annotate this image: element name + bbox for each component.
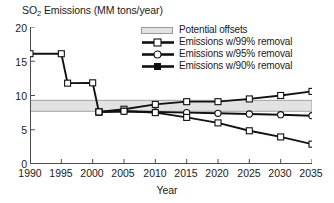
data-point-marker <box>309 141 312 147</box>
data-point-marker <box>184 114 190 120</box>
data-point-marker <box>90 80 96 86</box>
chart-title-rest: Emissions (MM tons/year) <box>41 4 163 16</box>
data-point-marker <box>278 112 284 118</box>
xtick-label-2005: 2005 <box>106 167 140 179</box>
xtick-label-2025: 2025 <box>232 167 266 179</box>
potential-offsets-band <box>30 100 312 111</box>
data-point-marker <box>215 110 221 116</box>
legend-key-square-filled-icon <box>141 61 175 72</box>
data-point-marker <box>152 101 158 107</box>
chart-figure: SO2 Emissions (MM tons/year) 20 15 10 5 … <box>0 0 334 203</box>
data-point-marker <box>65 80 71 86</box>
xtick-label-2015: 2015 <box>169 167 203 179</box>
chart-title-subscript: 2 <box>37 9 41 18</box>
data-point-marker <box>30 51 33 57</box>
ytick-label-15: 15 <box>5 56 27 68</box>
xaxis-label: Year <box>0 184 334 196</box>
xtick-label-2000: 2000 <box>75 167 109 179</box>
xtick-label-2035: 2035 <box>294 167 328 179</box>
data-point-marker <box>58 51 64 57</box>
chart-title-main: SO <box>22 4 37 16</box>
offsets-band-rect <box>30 100 312 111</box>
legend-label-90-removal: Emissions w/90% removal <box>179 60 292 71</box>
legend-label-potential-offsets: Potential offsets <box>179 24 247 35</box>
legend-label-99-removal: Emissions w/99% removal <box>179 36 292 47</box>
ytick-label-20: 20 <box>5 22 27 34</box>
data-point-marker <box>152 110 158 116</box>
data-point-marker <box>246 96 252 102</box>
data-point-marker <box>96 109 102 115</box>
legend-swatch-band-icon <box>141 27 173 34</box>
xtick-label-1990: 1990 <box>13 167 47 179</box>
data-point-marker <box>309 88 312 94</box>
ytick-label-5: 5 <box>5 124 27 136</box>
legend-key-square-open-icon <box>141 37 175 48</box>
data-point-marker <box>121 108 127 114</box>
data-point-marker <box>278 93 284 99</box>
legend-label-95-removal: Emissions w/95% removal <box>179 48 292 59</box>
ytick-label-10: 10 <box>5 90 27 102</box>
data-point-marker <box>246 128 252 134</box>
data-point-marker <box>184 99 190 105</box>
chart-legend: Potential offsets Emissions w/99% remova… <box>137 25 313 73</box>
data-point-marker <box>278 134 284 140</box>
xtick-label-2030: 2030 <box>263 167 297 179</box>
xtick-label-2010: 2010 <box>138 167 172 179</box>
data-point-marker <box>215 99 221 105</box>
data-point-marker <box>309 113 312 119</box>
chart-title: SO2 Emissions (MM tons/year) <box>22 4 163 16</box>
data-point-marker <box>246 111 252 117</box>
xtick-label-1995: 1995 <box>44 167 78 179</box>
xtick-label-2020: 2020 <box>200 167 234 179</box>
legend-key-circle-open-icon <box>141 49 175 60</box>
data-point-marker <box>215 120 221 126</box>
